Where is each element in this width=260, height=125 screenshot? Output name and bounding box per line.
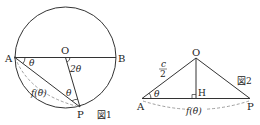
label-a2: A [136,101,145,112]
side-ao [142,58,196,99]
angle-o-label: 2θ [69,64,82,74]
figure-1: A O B P θ 2θ θ f(θ) 図1 [4,7,125,120]
figure-1-caption: 図1 [97,110,112,120]
label-p2: P [247,101,254,112]
angle-a-label: θ [29,58,35,68]
angle-a2-label: θ [154,89,160,99]
figure-2-caption: 図2 [237,76,252,86]
right-angle-mark [192,95,196,99]
label-p: P [77,109,84,120]
label-o: O [61,45,69,56]
arc-label: f(θ) [30,88,47,98]
diagram-canvas: A O B P θ 2θ θ f(θ) 図1 O A P H c 2 θ f(θ… [0,0,260,125]
label-a: A [4,53,13,64]
side-label-numerator: c [161,59,166,69]
label-h: H [198,88,206,98]
angle-arc-a [23,58,25,64]
arc-label-2: f(θ) [185,106,202,116]
angle-arc-p [72,99,78,101]
angle-arc-o [67,58,70,63]
side-label-denominator: 2 [160,69,166,79]
figure-2: O A P H c 2 θ f(θ) 図2 [136,47,254,116]
label-o2: O [192,47,200,58]
angle-p-label: θ [66,88,72,98]
angle-arc-a2 [149,93,151,98]
label-b: B [118,53,125,64]
point-a-dot [14,57,16,59]
